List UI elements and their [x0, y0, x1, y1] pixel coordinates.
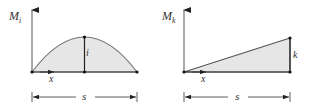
ordinate-label-i: i	[86, 47, 89, 58]
point-peak	[83, 35, 86, 38]
diagram-canvas: Mi i x s Mk k x s	[0, 0, 309, 108]
point-right	[135, 70, 138, 73]
span-label-s: s	[235, 90, 239, 102]
x-label: x	[48, 73, 54, 84]
point-bottom-right	[288, 70, 291, 73]
moment-diagram-k: Mk k x s	[161, 9, 298, 102]
triangular-moment-area	[184, 38, 290, 72]
point-left	[182, 70, 185, 73]
point-top-right	[288, 36, 291, 39]
x-label: x	[200, 73, 206, 84]
ordinate-label-k: k	[293, 49, 298, 60]
axis-label-mi: Mi	[8, 9, 21, 25]
point-left	[30, 70, 33, 73]
span-label-s: s	[82, 90, 86, 102]
moment-diagram-i: Mi i x s	[8, 9, 139, 102]
point-mid-base	[83, 70, 86, 73]
axis-label-mk: Mk	[161, 9, 176, 25]
